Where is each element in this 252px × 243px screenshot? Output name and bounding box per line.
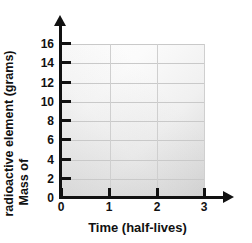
y-tick-mark: [62, 119, 71, 122]
gridline-horizontal: [62, 83, 205, 84]
x-tick-mark: [156, 188, 159, 197]
x-tick-mark: [203, 188, 206, 197]
x-tick-label: 0: [51, 201, 71, 213]
x-tick-label: 1: [99, 201, 119, 213]
graph-figure: 0 2 4 6 8 10 12 14 16 0 1 2 3 Mass of ra…: [0, 0, 252, 243]
y-axis-label-line-2: radioactive element (grams): [3, 50, 16, 216]
y-axis-arrow-icon: [54, 15, 66, 26]
x-axis-label: Time (half-lives): [55, 221, 220, 234]
y-axis-line: [59, 24, 62, 199]
gridline-vertical: [157, 44, 158, 198]
x-tick-label: 3: [194, 201, 214, 213]
y-tick-mark: [62, 100, 71, 103]
x-axis-line: [59, 196, 225, 199]
y-tick-mark: [62, 42, 71, 45]
x-axis-arrow-icon: [223, 191, 234, 203]
gridline-horizontal: [62, 140, 205, 141]
y-tick-mark: [62, 61, 71, 64]
y-tick-mark: [62, 177, 71, 180]
gridline-horizontal: [62, 63, 205, 64]
gridline-horizontal: [62, 102, 205, 103]
y-tick-mark: [62, 158, 71, 161]
x-tick-mark: [60, 188, 63, 197]
plot-area: [62, 44, 205, 198]
x-tick-label: 2: [147, 201, 167, 213]
x-tick-mark: [108, 188, 111, 197]
y-axis-label-line-1: Mass of: [18, 158, 31, 205]
gridline-vertical: [204, 44, 205, 198]
gridline-horizontal: [62, 44, 205, 45]
y-tick-mark: [62, 81, 71, 84]
y-tick-mark: [62, 196, 71, 199]
gridline-horizontal: [62, 121, 205, 122]
y-tick-mark: [62, 138, 71, 141]
gridline-vertical: [110, 44, 111, 198]
y-axis-label: Mass of radioactive element (grams): [0, 0, 46, 243]
gridline-horizontal: [62, 179, 205, 180]
gridline-horizontal: [62, 160, 205, 161]
